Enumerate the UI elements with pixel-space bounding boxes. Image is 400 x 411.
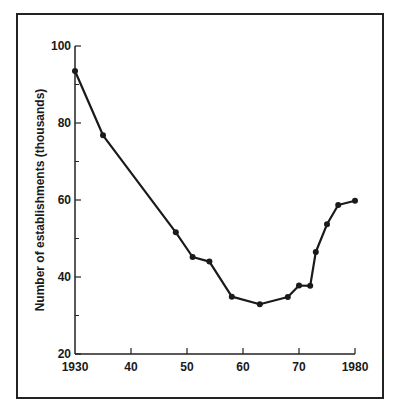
series-line: [75, 71, 355, 304]
data-series: [72, 68, 358, 307]
x-tick-label: 60: [236, 360, 250, 374]
line-chart: 20406080100 1930405060701980 Number of e…: [0, 0, 400, 411]
x-tick-label: 70: [292, 360, 306, 374]
axes: [75, 46, 355, 354]
data-point: [313, 249, 319, 255]
x-tick-label: 50: [180, 360, 194, 374]
x-tick-label: 1930: [62, 360, 89, 374]
data-point: [206, 259, 212, 265]
x-tick-label: 40: [124, 360, 138, 374]
y-tick-label: 20: [58, 347, 72, 361]
data-point: [307, 283, 313, 289]
data-point: [229, 294, 235, 300]
data-point: [100, 132, 106, 138]
y-tick-label: 40: [58, 270, 72, 284]
x-axis-ticks: 1930405060701980: [62, 348, 369, 374]
data-point: [335, 202, 341, 208]
y-tick-label: 60: [58, 193, 72, 207]
data-point: [173, 229, 179, 235]
data-point: [190, 254, 196, 260]
data-point: [324, 221, 330, 227]
data-point: [72, 68, 78, 74]
x-tick-label: 1980: [342, 360, 369, 374]
y-tick-label: 100: [51, 39, 71, 53]
y-axis-ticks: 20406080100: [51, 39, 81, 361]
y-tick-label: 80: [58, 116, 72, 130]
y-axis-title: Number of establishments (thousands): [33, 89, 47, 312]
data-point: [296, 282, 302, 288]
data-point: [257, 301, 263, 307]
data-point: [352, 198, 358, 204]
data-point: [285, 294, 291, 300]
